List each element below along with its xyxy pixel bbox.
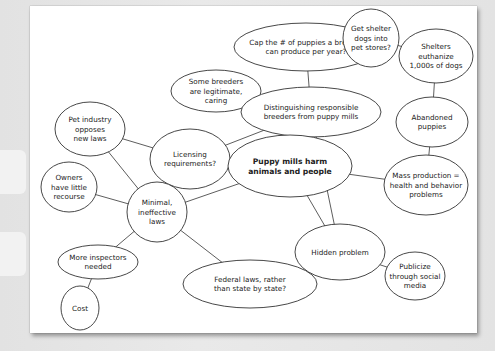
node-label: Abandoned: [412, 113, 453, 122]
node-label: are legitimate,: [190, 87, 243, 96]
node-label: 1,000s of dogs: [409, 61, 462, 70]
nodes-layer: Cap the # of puppies a breedercan produc…: [41, 9, 473, 330]
node-label: media: [404, 281, 426, 290]
node-label: health and behavior: [390, 181, 462, 190]
node-label: recourse: [53, 192, 85, 201]
node-federal: Federal laws, ratherthan state by state?: [183, 260, 317, 308]
node-label: Distinguishing responsible: [264, 103, 359, 112]
node-label: problems: [409, 190, 443, 199]
node-shelter-stores: Get shelterdogs intopet stores?: [343, 9, 399, 67]
node-inspectors: More inspectorsneeded: [58, 245, 138, 279]
node-label: breeders from puppy mills: [264, 112, 359, 121]
node-label: laws: [149, 217, 165, 226]
node-label: Hidden problem: [311, 248, 369, 257]
node-puppy-mills: Puppy mills harmanimals and people: [228, 135, 352, 197]
node-hidden: Hidden problem: [295, 224, 385, 280]
node-label: Some breeders: [189, 77, 244, 86]
node-label: Minimal,: [142, 198, 172, 207]
node-label: Shelters: [421, 42, 451, 51]
node-pet-industry: Pet industryopposesnew laws: [55, 102, 125, 156]
node-label: requirements?: [164, 159, 216, 168]
node-abandoned: Abandonedpuppies: [396, 97, 468, 147]
node-label: opposes: [75, 125, 105, 134]
node-licensing: Licensingrequirements?: [150, 129, 230, 189]
node-label: new laws: [73, 134, 106, 143]
node-label: More inspectors: [69, 253, 127, 262]
node-label: needed: [85, 262, 112, 271]
node-label: than state by state?: [214, 284, 286, 293]
node-owners: Ownershave littlerecourse: [41, 162, 97, 212]
node-label: have little: [51, 183, 88, 192]
node-euthanize: Shelterseuthanize1,000s of dogs: [399, 29, 473, 83]
node-label: pet stores?: [351, 43, 391, 52]
node-label: Owners: [55, 173, 82, 182]
node-label: Publicize: [399, 262, 431, 271]
node-label: through social: [389, 272, 440, 281]
concept-map: Cap the # of puppies a breedercan produc…: [0, 0, 495, 351]
node-mass-production: Mass production =health and behaviorprob…: [384, 155, 468, 215]
node-label: dogs into: [354, 34, 387, 43]
node-label: caring: [205, 96, 227, 105]
node-label: can produce per year?: [266, 47, 347, 56]
node-label: Puppy mills harm: [253, 157, 328, 166]
node-label: Licensing: [173, 150, 207, 159]
node-publicize: Publicizethrough socialmedia: [385, 252, 445, 300]
node-label: ineffective: [138, 208, 176, 217]
node-label: Mass production =: [392, 171, 459, 180]
node-label: puppies: [418, 122, 447, 131]
node-distinguishing: Distinguishing responsiblebreeders from …: [241, 87, 381, 137]
node-label: Pet industry: [68, 115, 112, 124]
node-label: Get shelter: [351, 24, 391, 33]
node-minimal-laws: Minimal,ineffectivelaws: [127, 182, 187, 242]
node-cost: Cost: [61, 286, 99, 330]
node-label: euthanize: [418, 52, 454, 61]
node-label: Cost: [72, 304, 88, 313]
node-label: Federal laws, rather: [214, 275, 286, 284]
node-label: animals and people: [248, 167, 332, 176]
